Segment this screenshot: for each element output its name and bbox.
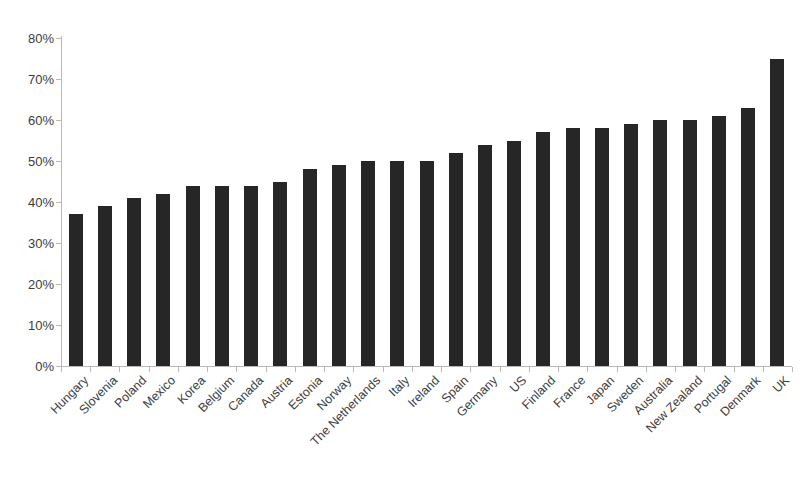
y-axis-tick-label: 10%: [28, 319, 54, 332]
bar: [361, 161, 375, 366]
y-axis-tick-mark: [56, 38, 61, 39]
x-axis-tick-mark: [266, 367, 267, 372]
bar: [98, 206, 112, 366]
bar: [595, 128, 609, 366]
y-axis-tick-label: 80%: [28, 32, 54, 45]
y-axis-tick-label: 30%: [28, 237, 54, 250]
x-axis-tick-mark: [441, 367, 442, 372]
y-axis-tick-mark: [56, 202, 61, 203]
x-axis-tick-mark: [529, 367, 530, 372]
x-axis-tick-mark: [61, 367, 62, 372]
x-axis-tick-mark: [704, 367, 705, 372]
bar: [244, 186, 258, 366]
bar: [273, 182, 287, 367]
x-axis-tick-mark: [207, 367, 208, 372]
y-axis-tick-label: 70%: [28, 73, 54, 86]
bar: [420, 161, 434, 366]
bar: [653, 120, 667, 366]
x-axis-tick-mark: [383, 367, 384, 372]
x-axis-tick-mark: [646, 367, 647, 372]
x-axis-tick-mark: [792, 367, 793, 372]
bar: [741, 108, 755, 366]
x-axis-tick-mark: [734, 367, 735, 372]
x-axis-tick-mark: [587, 367, 588, 372]
x-axis-tick-mark: [763, 367, 764, 372]
bar: [186, 186, 200, 366]
bar: [390, 161, 404, 366]
x-axis-tick-mark: [617, 367, 618, 372]
bar: [566, 128, 580, 366]
y-axis-tick-mark: [56, 120, 61, 121]
x-axis-tick-mark: [90, 367, 91, 372]
bar: [712, 116, 726, 366]
bar: [770, 59, 784, 367]
y-axis-tick-mark: [56, 79, 61, 80]
bar: [536, 132, 550, 366]
bar: [156, 194, 170, 366]
y-axis-tick-mark: [56, 284, 61, 285]
x-axis-tick-mark: [500, 367, 501, 372]
x-axis-tick-mark: [178, 367, 179, 372]
bar: [683, 120, 697, 366]
bar-chart: 0%10%20%30%40%50%60%70%80% HungarySloven…: [0, 0, 801, 498]
bar: [478, 145, 492, 366]
x-axis-tick-mark: [558, 367, 559, 372]
y-axis-tick-mark: [56, 161, 61, 162]
y-axis-tick-label: 60%: [28, 114, 54, 127]
x-axis-tick-mark: [324, 367, 325, 372]
bar: [303, 169, 317, 366]
x-axis-tick-mark: [295, 367, 296, 372]
y-axis-tick-label: 50%: [28, 155, 54, 168]
bar: [624, 124, 638, 366]
bar: [332, 165, 346, 366]
bars-layer: [61, 0, 792, 366]
x-axis-tick-mark: [236, 367, 237, 372]
y-axis-tick-mark: [56, 243, 61, 244]
bar: [449, 153, 463, 366]
bar: [215, 186, 229, 366]
y-axis-tick-label: 0%: [35, 360, 54, 373]
x-axis-tick-mark: [470, 367, 471, 372]
x-axis-labels: HungarySloveniaPolandMexicoKoreaBelgiumC…: [61, 366, 792, 498]
x-axis-tick-mark: [412, 367, 413, 372]
x-axis-tick-mark: [149, 367, 150, 372]
bar: [507, 141, 521, 367]
y-axis-tick-mark: [56, 325, 61, 326]
y-axis-tick-label: 20%: [28, 278, 54, 291]
bar: [127, 198, 141, 366]
bar: [69, 214, 83, 366]
y-axis-tick-label: 40%: [28, 196, 54, 209]
x-axis-tick-mark: [119, 367, 120, 372]
x-axis-tick-mark: [675, 367, 676, 372]
x-axis-tick-mark: [353, 367, 354, 372]
